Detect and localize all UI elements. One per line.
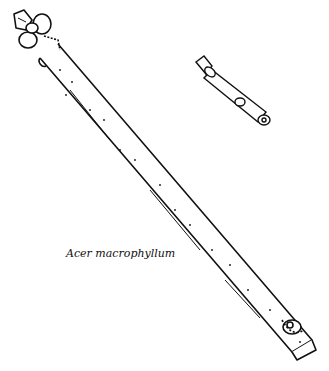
main-twig <box>14 10 316 360</box>
species-caption: Acer macrophyllum <box>66 247 175 260</box>
botanical-twig-drawing <box>0 0 329 371</box>
small-twig <box>196 56 270 125</box>
